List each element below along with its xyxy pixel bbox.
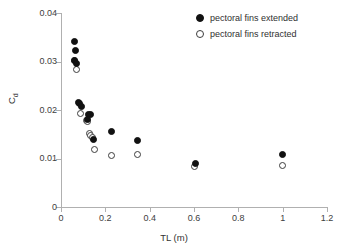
- data-point-extended: [73, 60, 80, 67]
- x-axis-title: TL (m): [0, 232, 348, 243]
- y-tick-label: 0.03: [39, 57, 57, 66]
- series-filled: [61, 13, 327, 207]
- data-point-extended: [72, 47, 79, 54]
- legend: pectoral fins extended pectoral fins ret…: [196, 10, 298, 42]
- data-point-extended: [84, 116, 91, 123]
- scatter-chart: 00.010.020.030.04 00.20.40.60.811.2 TL (…: [0, 0, 348, 252]
- x-tick-label: 0.6: [174, 214, 214, 223]
- x-tick-mark: [194, 207, 195, 212]
- x-tick-label: 0.8: [218, 214, 258, 223]
- x-tick-mark: [61, 207, 62, 212]
- x-tick-label: 0.4: [130, 214, 170, 223]
- x-tick-mark: [283, 207, 284, 212]
- x-tick-mark: [150, 207, 151, 212]
- data-point-extended: [71, 38, 78, 45]
- legend-entry-extended: pectoral fins extended: [196, 10, 298, 26]
- legend-label-extended: pectoral fins extended: [210, 13, 298, 23]
- x-tick-label: 0: [41, 214, 81, 223]
- x-tick-label: 0.2: [85, 214, 125, 223]
- plot-area: [61, 13, 327, 207]
- data-point-extended: [134, 137, 141, 144]
- y-axis-title-base: C: [6, 97, 17, 104]
- y-tick-label: 0: [52, 203, 57, 212]
- x-tick-mark: [105, 207, 106, 212]
- legend-entry-retracted: pectoral fins retracted: [196, 26, 298, 42]
- filled-circle-icon: [196, 14, 204, 22]
- x-tick-label: 1: [263, 214, 303, 223]
- open-circle-icon: [196, 30, 204, 38]
- data-point-extended: [192, 160, 199, 167]
- x-tick-label: 1.2: [307, 214, 347, 223]
- y-tick-label: 0.01: [39, 154, 57, 163]
- data-point-extended: [108, 128, 115, 135]
- y-tick-label: 0.04: [39, 9, 57, 18]
- data-point-extended: [78, 103, 85, 110]
- y-axis-title-subscript: d: [12, 93, 19, 97]
- legend-label-retracted: pectoral fins retracted: [210, 29, 297, 39]
- data-point-extended: [90, 136, 97, 143]
- y-tick-label: 0.02: [39, 106, 57, 115]
- x-tick-mark: [327, 207, 328, 212]
- x-tick-mark: [238, 207, 239, 212]
- data-point-extended: [279, 151, 286, 158]
- y-axis-title: Cd: [6, 93, 19, 104]
